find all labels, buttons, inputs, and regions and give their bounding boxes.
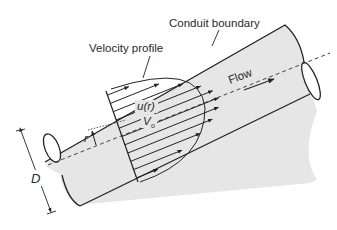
conduit-boundary-label: Conduit boundary [169, 17, 260, 29]
pipe-left-end [40, 131, 64, 164]
conduit-flow-diagram: Conduit boundary Velocity profile Flow u… [0, 0, 337, 230]
diameter-tick-top [16, 129, 25, 131]
velocity-vector-arrow [107, 87, 128, 96]
centerline-velocity-subscript: o [151, 122, 155, 129]
velocity-profile-leader [143, 56, 150, 78]
velocity-profile-label: Velocity profile [89, 42, 163, 54]
diameter-label: D [31, 171, 40, 186]
conduit-boundary-leader [212, 30, 219, 46]
local-velocity-label: u(r) [137, 100, 155, 112]
diameter-tick-bottom [47, 211, 56, 214]
